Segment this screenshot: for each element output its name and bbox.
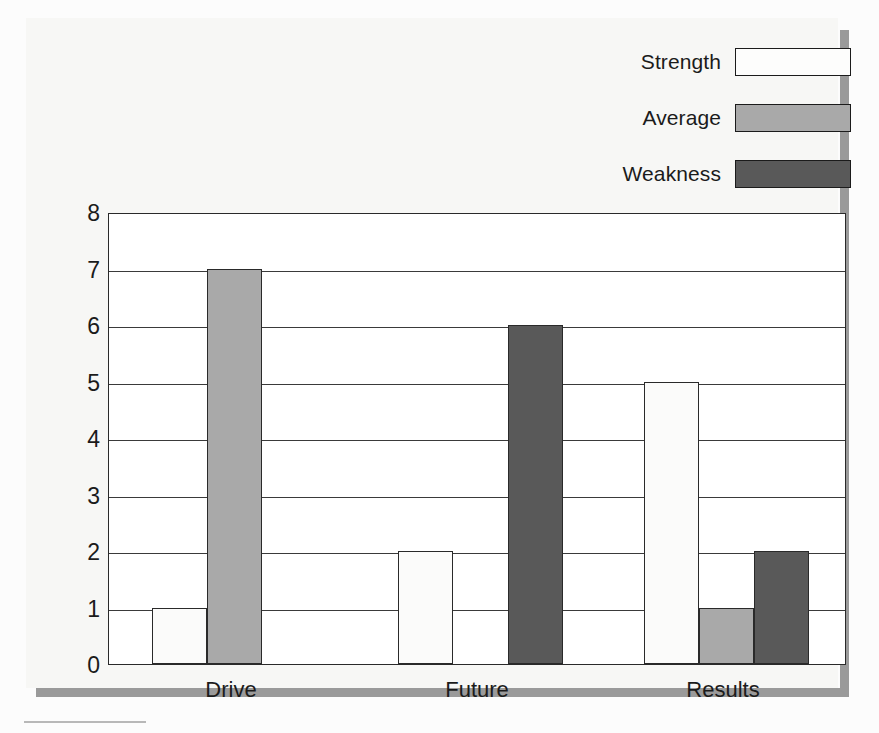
plot-wrapper: 012345678 DriveFutureResults <box>66 213 856 713</box>
legend-item-average[interactable]: Average <box>586 102 851 134</box>
bar-drive-average <box>207 269 262 665</box>
legend-swatch-strength-icon <box>735 48 851 76</box>
legend-item-strength[interactable]: Strength <box>586 46 851 78</box>
bar-results-average <box>699 608 754 665</box>
chart-legend: Strength Average Weakness <box>586 46 851 214</box>
y-axis: 012345678 <box>66 213 100 665</box>
bar-results-strength <box>644 382 699 665</box>
y-axis-tick-label: 7 <box>66 258 100 281</box>
legend-label-strength: Strength <box>641 50 721 74</box>
scanned-page: Strength Average Weakness 012345678 Driv… <box>0 0 879 733</box>
x-axis-tick-label: Results <box>686 677 759 703</box>
y-axis-tick-label: 1 <box>66 597 100 620</box>
bar-results-weakness <box>754 551 809 664</box>
y-axis-tick-label: 4 <box>66 428 100 451</box>
x-axis: DriveFutureResults <box>108 665 846 709</box>
page-footer-rule <box>24 721 146 723</box>
x-axis-tick-label: Drive <box>205 677 256 703</box>
y-axis-tick-label: 5 <box>66 371 100 394</box>
y-axis-tick-label: 0 <box>66 654 100 677</box>
legend-label-weakness: Weakness <box>623 162 721 186</box>
plot-area <box>108 213 846 665</box>
legend-swatch-weakness-icon <box>735 160 851 188</box>
x-axis-tick-label: Future <box>445 677 509 703</box>
y-axis-tick-label: 3 <box>66 484 100 507</box>
legend-item-weakness[interactable]: Weakness <box>586 158 851 190</box>
legend-label-average: Average <box>642 106 721 130</box>
y-axis-tick-label: 2 <box>66 541 100 564</box>
bar-future-strength <box>398 551 453 664</box>
bars-layer <box>109 214 845 664</box>
y-axis-tick-label: 8 <box>66 202 100 225</box>
chart-card: Strength Average Weakness 012345678 Driv… <box>26 18 838 688</box>
legend-swatch-average-icon <box>735 104 851 132</box>
bar-drive-strength <box>152 608 207 665</box>
bar-future-weakness <box>508 325 563 664</box>
y-axis-tick-label: 6 <box>66 315 100 338</box>
